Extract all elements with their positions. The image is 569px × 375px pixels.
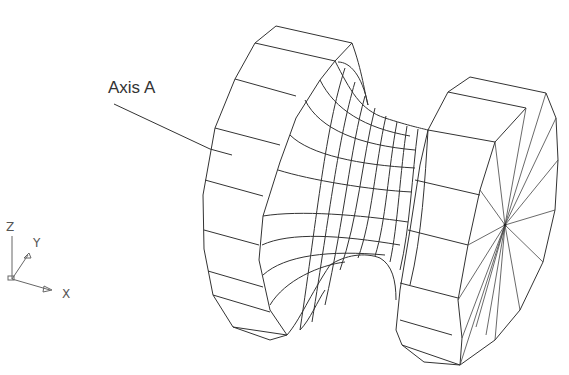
coordinate-triad-icon: Z Y X <box>6 220 70 301</box>
y-axis-line <box>12 255 28 279</box>
right-flange-face-edge <box>460 77 558 365</box>
waist-mesh <box>262 43 428 335</box>
right-flange-center-point <box>504 224 507 227</box>
left-flange-seg <box>204 230 259 245</box>
axis-a-callout: Axis A <box>108 78 210 149</box>
right-flange-seg <box>415 180 480 195</box>
right-flange-seg <box>400 283 458 298</box>
left-flange-top-rim <box>276 26 352 61</box>
y-label: Y <box>32 236 41 250</box>
left-flange-seg <box>215 128 280 145</box>
waist-mesh-line <box>278 170 412 192</box>
waist-mesh-line <box>270 262 345 305</box>
right-flange-top-edge <box>428 77 470 130</box>
left-flange-seg <box>255 43 335 61</box>
diagram-canvas: Axis A Z Y X <box>0 0 569 375</box>
axis-a-leader-line <box>114 104 210 149</box>
left-flange <box>203 26 352 340</box>
waist-mesh-ring <box>300 68 345 330</box>
waist-mesh-ring <box>340 108 375 270</box>
left-flange-outer-edge <box>203 26 276 340</box>
right-flange-seg <box>408 230 468 245</box>
left-flange-seg <box>233 327 287 335</box>
z-label: Z <box>6 220 14 234</box>
right-flange-seg <box>400 320 452 335</box>
left-flange-seg <box>205 180 263 196</box>
left-flange-inner-edge <box>259 61 335 335</box>
left-flange-seg <box>235 79 296 96</box>
axis-a-label: Axis A <box>108 78 156 97</box>
right-flange-rim-edge <box>458 108 526 365</box>
left-flange-seg <box>270 335 287 340</box>
x-label: X <box>62 287 70 301</box>
right-flange-outer-edge <box>396 130 460 365</box>
right-flange-seg <box>448 92 526 108</box>
left-flange-seg <box>208 271 263 287</box>
axis-a-hidden-segment <box>210 149 232 155</box>
waist-mesh-ring <box>410 130 428 285</box>
waist-mesh-line <box>305 100 415 150</box>
waist-mesh-ring <box>400 129 418 270</box>
waist-mesh-line <box>263 253 385 275</box>
x-axis-line <box>12 279 50 290</box>
waist-mesh-line <box>263 213 408 222</box>
right-flange-seg <box>428 130 495 142</box>
waist-top-silhouette <box>335 61 428 130</box>
right-flange-seg <box>402 345 460 365</box>
waist-mesh-line <box>290 135 415 168</box>
right-flange <box>396 77 558 365</box>
